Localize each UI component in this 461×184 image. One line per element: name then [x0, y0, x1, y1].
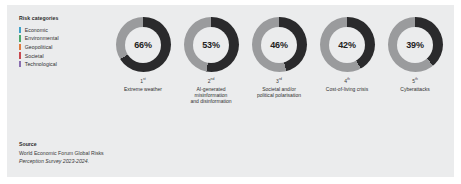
- donut-chart-1: 66%: [116, 17, 171, 72]
- donut-value-4: 42%: [338, 40, 356, 50]
- donut-rank-2: 2nd: [208, 77, 215, 84]
- legend-item-societal: Societal: [19, 51, 111, 60]
- legend-label-technological: Technological: [25, 61, 57, 67]
- donut-cell-3: 46% 3rd Societal and/or political polari…: [247, 17, 311, 104]
- legend-item-environmental: Environmental: [19, 34, 111, 43]
- donut-hole-1: 66%: [125, 27, 161, 63]
- legend-item-technological: Technological: [19, 60, 111, 69]
- donut-value-5: 39%: [406, 40, 424, 50]
- legend-item-economic: Economic: [19, 26, 111, 35]
- legend-swatch-technological: [19, 61, 21, 68]
- donut-value-1: 66%: [134, 40, 152, 50]
- donut-chart-4: 42%: [320, 17, 375, 72]
- legend-label-economic: Economic: [25, 27, 48, 33]
- donut-hole-2: 53%: [193, 27, 229, 63]
- donut-value-3: 46%: [270, 40, 288, 50]
- donut-caption-1: Extreme weather: [124, 86, 162, 92]
- donut-hole-3: 46%: [261, 27, 297, 63]
- source-line-2: Perception Survey 2023-2024.: [19, 158, 279, 165]
- source-line-1: World Economic Forum Global Risks: [19, 150, 279, 157]
- donut-rank-suffix-5: th: [415, 77, 418, 81]
- donut-rank-suffix-2: nd: [211, 77, 215, 81]
- legend-label-geopolitical: Geopolitical: [25, 44, 53, 50]
- legend-swatch-geopolitical: [19, 44, 21, 51]
- donut-hole-5: 39%: [397, 27, 433, 63]
- donut-rank-3: 3rd: [276, 77, 282, 84]
- legend-swatch-economic: [19, 27, 21, 34]
- legend-swatch-environmental: [19, 35, 21, 42]
- donut-chart-2: 53%: [184, 17, 239, 72]
- donut-chart-row: 66% 1st Extreme weather 53% 2nd AI-gener…: [111, 17, 447, 104]
- donut-chart-5: 39%: [388, 17, 443, 72]
- donut-cell-1: 66% 1st Extreme weather: [111, 17, 175, 104]
- donut-caption-3: Societal and/or political polarisation: [257, 86, 301, 98]
- donut-cell-4: 42% 4th Cost-of-living crisis: [315, 17, 379, 104]
- donut-rank-4: 4th: [344, 77, 350, 84]
- donut-cell-5: 39% 5th Cyberattacks: [383, 17, 447, 104]
- donut-caption-5: Cyberattacks: [400, 86, 429, 92]
- donut-rank-1: 1st: [140, 77, 145, 84]
- legend-label-environmental: Environmental: [25, 35, 59, 41]
- legend: Risk categories Economic Environmental G…: [19, 15, 111, 68]
- donut-caption-2: AI-generated misinformation and disinfor…: [190, 86, 231, 105]
- legend-item-geopolitical: Geopolitical: [19, 43, 111, 52]
- source-block: Source World Economic Forum Global Risks…: [19, 141, 279, 165]
- donut-cell-2: 53% 2nd AI-generated misinformation and …: [179, 17, 243, 104]
- infographic-panel: Risk categories Economic Environmental G…: [7, 5, 454, 177]
- donut-rank-suffix-4: th: [347, 77, 350, 81]
- donut-chart-3: 46%: [252, 17, 307, 72]
- donut-rank-5: 5th: [412, 77, 418, 84]
- donut-rank-suffix-3: rd: [279, 77, 282, 81]
- donut-caption-4: Cost-of-living crisis: [326, 86, 368, 92]
- legend-label-societal: Societal: [25, 53, 44, 59]
- donut-rank-suffix-1: st: [143, 77, 146, 81]
- legend-title: Risk categories: [19, 15, 111, 21]
- source-title: Source: [19, 141, 279, 147]
- donut-hole-4: 42%: [329, 27, 365, 63]
- legend-swatch-societal: [19, 52, 21, 59]
- donut-value-2: 53%: [202, 40, 220, 50]
